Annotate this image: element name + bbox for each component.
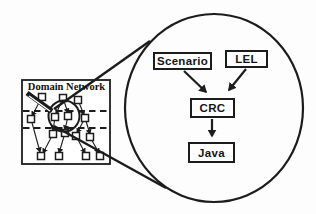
java-box: Java bbox=[188, 142, 235, 163]
scenario-box: Scenario bbox=[153, 52, 212, 70]
crc-box: CRC bbox=[190, 98, 235, 118]
lel-box: LEL bbox=[225, 50, 268, 68]
domain-network-title: Domain Network bbox=[23, 81, 110, 94]
diagram-canvas bbox=[0, 0, 316, 214]
lens-zoom-diagram: Domain Network Scenario LEL CRC Java bbox=[0, 0, 316, 214]
